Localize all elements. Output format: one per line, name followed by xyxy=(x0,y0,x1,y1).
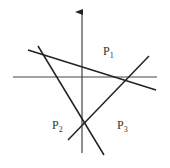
label-p1: P1 xyxy=(103,44,114,60)
label-p3: P3 xyxy=(117,118,128,134)
line-diagram: P1P2P3 xyxy=(0,0,170,168)
line-c xyxy=(68,56,149,140)
lines xyxy=(28,46,156,155)
line-a xyxy=(28,50,156,90)
line-b xyxy=(38,46,104,155)
axes xyxy=(13,12,157,153)
label-p2: P2 xyxy=(52,118,63,134)
